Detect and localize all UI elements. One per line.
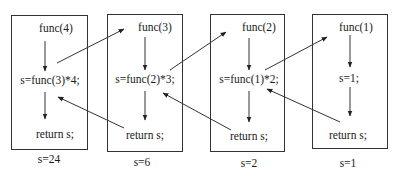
return-arrow [163,93,231,130]
call-arrow [265,37,327,70]
call-arrow [57,29,124,63]
call-arrow [170,32,226,70]
arrows-layer [0,0,396,180]
return-arrow [58,97,124,128]
return-arrow [267,89,340,122]
